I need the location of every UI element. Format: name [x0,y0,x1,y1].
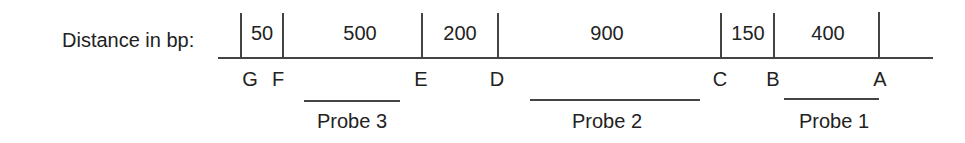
site-label: D [490,68,504,91]
segment-distance: 50 [251,22,273,45]
segment-distance: 400 [811,22,844,45]
probe-2-label: Probe 2 [572,110,642,133]
segment-distance: 200 [443,22,476,45]
segment-distance: 500 [343,22,376,45]
tick-C [720,13,722,58]
site-label: E [414,68,427,91]
site-label: A [873,68,886,91]
segment-distance: 900 [590,22,623,45]
tick-B [773,13,775,58]
segment-distance: 150 [731,22,764,45]
tick-G [240,13,242,58]
probe-1-label: Probe 1 [799,110,869,133]
tick-A [878,12,880,58]
site-label: G [242,68,258,91]
tick-D [497,13,499,58]
probe-2-line [530,99,700,101]
probe-1-line [784,98,879,100]
probe-3-label: Probe 3 [317,110,387,133]
site-label: C [713,68,727,91]
probe-3-line [304,100,400,102]
site-label: B [766,68,779,91]
tick-E [421,13,423,58]
dna-baseline [218,57,933,59]
site-label: F [272,68,284,91]
tick-F [282,13,284,58]
axis-label: Distance in bp: [62,29,194,52]
